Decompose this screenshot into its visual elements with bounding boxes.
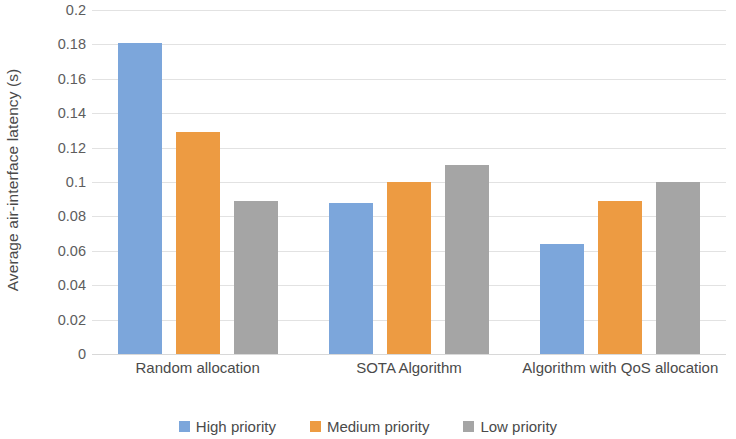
y-axis-tick-label: 0.08 xyxy=(58,208,86,224)
x-axis-category-labels: Random allocationSOTA AlgorithmAlgorithm… xyxy=(92,358,726,408)
legend-swatch-icon xyxy=(310,421,321,432)
y-axis-tick-label: 0.14 xyxy=(58,105,86,121)
legend-item[interactable]: High priority xyxy=(179,418,276,435)
y-axis-tick-label: 0.12 xyxy=(58,140,86,156)
bar-group xyxy=(515,10,726,354)
x-axis-category-label: Random allocation xyxy=(92,358,303,408)
y-axis-tick-label: 0.04 xyxy=(58,277,86,293)
legend-swatch-icon xyxy=(463,421,474,432)
y-axis-tick-label: 0.18 xyxy=(58,36,86,52)
x-axis-category-label: Algorithm with QoS allocation xyxy=(515,358,726,408)
y-axis-tick-label: 0.02 xyxy=(58,312,86,328)
y-axis-title-text: Average air-interface latency (s) xyxy=(4,69,22,292)
bar[interactable] xyxy=(118,43,162,354)
plot-area xyxy=(92,10,726,354)
bar[interactable] xyxy=(540,244,584,354)
y-axis-tick-labels: 0.20.180.160.140.120.10.080.060.040.020 xyxy=(26,0,92,360)
legend-label: Medium priority xyxy=(327,418,430,435)
bar[interactable] xyxy=(387,182,431,354)
x-axis-category-label: SOTA Algorithm xyxy=(303,358,514,408)
bar[interactable] xyxy=(656,182,700,354)
legend-swatch-icon xyxy=(179,421,190,432)
legend-label: High priority xyxy=(196,418,276,435)
bar[interactable] xyxy=(445,165,489,354)
y-axis-tick-label: 0.06 xyxy=(58,243,86,259)
y-axis-tick-label: 0 xyxy=(78,346,86,362)
bar[interactable] xyxy=(329,203,373,354)
bar-group xyxy=(303,10,514,354)
bar-chart: Average air-interface latency (s) 0.20.1… xyxy=(0,0,736,439)
bar[interactable] xyxy=(598,201,642,354)
chart-legend: High priorityMedium priorityLow priority xyxy=(0,414,736,439)
bar-groups xyxy=(92,10,726,354)
legend-label: Low priority xyxy=(480,418,557,435)
bar[interactable] xyxy=(176,132,220,354)
legend-item[interactable]: Medium priority xyxy=(310,418,430,435)
y-axis-tick-label: 0.16 xyxy=(58,71,86,87)
y-axis-tick-label: 0.1 xyxy=(66,174,86,190)
bar[interactable] xyxy=(234,201,278,354)
axis-baseline xyxy=(92,354,726,355)
legend-item[interactable]: Low priority xyxy=(463,418,557,435)
y-axis-tick-label: 0.2 xyxy=(66,2,86,18)
y-axis-title: Average air-interface latency (s) xyxy=(0,0,26,360)
bar-group xyxy=(92,10,303,354)
